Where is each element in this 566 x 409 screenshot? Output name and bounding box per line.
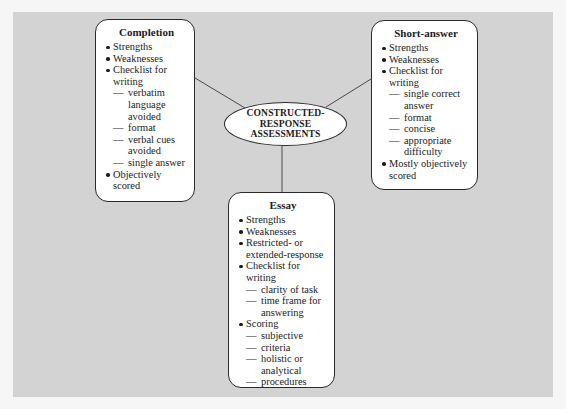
- dash-glyph: —: [246, 330, 256, 342]
- node-list: Strengths Weaknesses Checklist for writi…: [105, 41, 188, 192]
- sub-list-item: —holistic or analytical: [238, 353, 328, 376]
- node-title: Short-answer: [381, 26, 471, 40]
- list-item: Weaknesses: [105, 53, 188, 65]
- node-list: Strengths Weaknesses Checklist for writi…: [381, 42, 471, 181]
- list-item: Strengths: [381, 42, 471, 54]
- list-item: Strengths: [238, 214, 328, 226]
- dash-glyph: —: [246, 284, 256, 296]
- list-item: Checklist for writing: [238, 260, 328, 283]
- sub-list-item: —verbatim language avoided: [105, 87, 188, 122]
- sub-list-item: —verbal cues avoided: [105, 134, 188, 157]
- dash-glyph: —: [246, 353, 256, 365]
- sub-list-item: —appropriate difficulty: [381, 135, 471, 158]
- node-title: Essay: [238, 198, 328, 212]
- dash-glyph: —: [389, 88, 399, 100]
- sub-list-item: —concise: [381, 123, 471, 135]
- dash-glyph: —: [113, 134, 123, 146]
- sub-list-item: —criteria: [238, 342, 328, 354]
- dash-glyph: —: [246, 376, 256, 388]
- list-item: Checklist for writing: [105, 64, 188, 87]
- sub-list-item: —format: [381, 112, 471, 124]
- dash-glyph: —: [113, 87, 123, 99]
- dash-glyph: —: [389, 135, 399, 147]
- sub-list-item: —time frame for answering: [238, 295, 328, 318]
- sub-list-item: —subjective: [238, 330, 328, 342]
- dash-glyph: —: [389, 112, 399, 124]
- dash-glyph: —: [389, 123, 399, 135]
- list-item: Mostly objectively scored: [381, 158, 471, 181]
- list-item: Checklist for writing: [381, 65, 471, 88]
- list-item: Weaknesses: [381, 54, 471, 66]
- list-item: Weaknesses: [238, 226, 328, 238]
- node-title: Completion: [105, 25, 188, 39]
- list-item: Strengths: [105, 41, 188, 53]
- sub-list-item: —single correct answer: [381, 88, 471, 111]
- node-completion: Completion Strengths Weaknesses Checklis…: [95, 19, 195, 202]
- node-short-answer: Short-answer Strengths Weaknesses Checkl…: [371, 20, 478, 190]
- dash-glyph: —: [246, 342, 256, 354]
- list-item: Scoring: [238, 318, 328, 330]
- sub-list-item: —procedures: [238, 376, 328, 388]
- sub-list-item: —single answer: [105, 157, 188, 169]
- sub-list-item: —clarity of task: [238, 284, 328, 296]
- list-item: Objectively scored: [105, 169, 188, 192]
- center-node-constructed-response: CONSTRUCTED- RESPONSE ASSESSMENTS: [224, 102, 347, 146]
- center-label: CONSTRUCTED- RESPONSE ASSESSMENTS: [247, 108, 325, 140]
- list-item: Restricted- or extended-response: [238, 237, 328, 260]
- dash-glyph: —: [113, 122, 123, 134]
- connector-short-answer: [326, 79, 371, 107]
- node-essay: Essay Strengths Weaknesses Restricted- o…: [228, 192, 335, 388]
- dash-glyph: —: [246, 295, 256, 307]
- node-list: Strengths Weaknesses Restricted- or exte…: [238, 214, 328, 388]
- dash-glyph: —: [113, 157, 123, 169]
- sub-list-item: —format: [105, 122, 188, 134]
- connector-completion: [195, 78, 245, 108]
